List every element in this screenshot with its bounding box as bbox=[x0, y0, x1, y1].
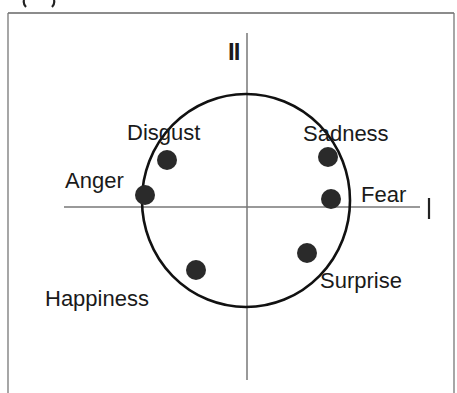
point-surprise bbox=[297, 243, 317, 263]
label-disgust: Disgust bbox=[127, 120, 200, 145]
point-sadness bbox=[318, 147, 338, 167]
label-happiness: Happiness bbox=[45, 286, 149, 311]
emotion-circle-chart: II Disgust Anger Sadness Fear Surprise H… bbox=[0, 0, 457, 393]
label-fear: Fear bbox=[361, 182, 406, 207]
point-anger bbox=[135, 185, 155, 205]
label-anger: Anger bbox=[65, 168, 124, 193]
data-points bbox=[135, 147, 341, 280]
label-sadness: Sadness bbox=[303, 121, 389, 146]
cropped-panel-label bbox=[24, 0, 55, 7]
point-happiness bbox=[186, 260, 206, 280]
axis-label-ii: II bbox=[228, 38, 240, 65]
label-surprise: Surprise bbox=[320, 268, 402, 293]
point-disgust bbox=[157, 150, 177, 170]
point-fear bbox=[321, 189, 341, 209]
point-labels: Disgust Anger Sadness Fear Surprise Happ… bbox=[45, 120, 406, 311]
